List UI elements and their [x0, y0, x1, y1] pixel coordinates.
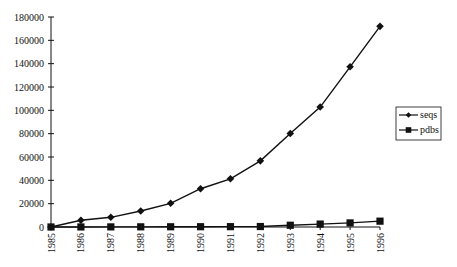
diamond-marker: [77, 216, 85, 224]
legend: seqspdbs: [396, 107, 441, 140]
legend-label: seqs: [420, 109, 437, 120]
line-chart: 0200004000060000800001000001200001400001…: [0, 0, 457, 267]
square-marker: [197, 223, 204, 230]
x-tick-label: 1988: [135, 233, 146, 253]
x-tick-label: 1989: [165, 233, 176, 253]
y-tick-label: 180000: [14, 12, 44, 23]
x-axis: 1985198619871988198919901991199219931994…: [46, 227, 386, 253]
y-tick-label: 140000: [14, 58, 44, 69]
y-tick-label: 40000: [19, 175, 44, 186]
square-marker: [317, 220, 324, 227]
legend-label: pdbs: [420, 124, 439, 135]
x-tick-label: 1995: [345, 233, 356, 253]
diamond-marker: [107, 214, 115, 222]
x-tick-label: 1993: [285, 233, 296, 253]
y-tick-label: 160000: [14, 35, 44, 46]
x-tick-label: 1987: [105, 233, 116, 253]
diamond-marker: [137, 207, 145, 215]
y-tick-label: 100000: [14, 105, 44, 116]
y-tick-label: 20000: [19, 198, 44, 209]
x-tick-label: 1991: [225, 233, 236, 253]
series-pdbs: [47, 218, 383, 231]
x-tick-label: 1986: [75, 233, 86, 253]
series-seqs: [47, 23, 384, 231]
square-marker: [107, 223, 114, 230]
square-marker: [167, 223, 174, 230]
x-tick-label: 1990: [195, 233, 206, 253]
diamond-marker: [227, 175, 235, 183]
square-marker: [47, 223, 54, 230]
series-group: [47, 23, 384, 231]
y-axis: 0200004000060000800001000001200001400001…: [14, 12, 54, 233]
y-tick-label: 120000: [14, 82, 44, 93]
square-marker: [227, 223, 234, 230]
x-tick-label: 1994: [315, 233, 326, 253]
square-marker: [376, 218, 383, 225]
square-marker: [346, 219, 353, 226]
y-tick-label: 60000: [19, 152, 44, 163]
x-tick-label: 1996: [375, 233, 386, 253]
diamond-marker: [197, 185, 205, 193]
x-tick-label: 1992: [255, 233, 266, 253]
y-tick-label: 0: [39, 222, 44, 233]
x-tick-label: 1985: [46, 233, 57, 253]
square-marker: [137, 223, 144, 230]
square-marker: [287, 222, 294, 229]
diamond-marker: [167, 200, 175, 208]
square-marker: [257, 223, 264, 230]
square-marker: [406, 127, 412, 133]
square-marker: [77, 223, 84, 230]
y-tick-label: 80000: [19, 128, 44, 139]
